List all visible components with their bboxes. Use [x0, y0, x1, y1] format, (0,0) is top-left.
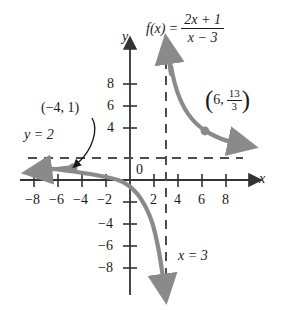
x-tick-label-neg2: −2 [97, 193, 112, 207]
point-right-open-paren: ( [205, 90, 213, 111]
function-name: f(x) [146, 21, 165, 37]
x-tick-label-4: 4 [174, 193, 181, 207]
y-tick-label-neg8: −8 [98, 261, 113, 275]
y-tick-label-neg4: −4 [98, 217, 113, 231]
x-tick-label-8: 8 [222, 193, 229, 207]
y-tick-label-8: 8 [107, 77, 114, 91]
function-equation: f(x) = 2x + 1 x − 3 [146, 12, 224, 45]
point-right-numerator: 13 [227, 88, 242, 100]
point-marker-right [201, 127, 210, 136]
curve-right-branch-top [169, 60, 171, 74]
point-left-leader-line [78, 118, 95, 163]
point-right-x: 6, [213, 92, 224, 108]
vertical-asymptote-label: x = 3 [178, 249, 208, 263]
origin-label: 0 [136, 163, 143, 177]
x-tick-label-6: 6 [198, 193, 205, 207]
vertical-asymptote-text: x = 3 [178, 248, 208, 263]
point-right-close-paren: ) [242, 90, 250, 111]
x-tick-label-neg8: −8 [25, 193, 40, 207]
graph-canvas [0, 0, 285, 310]
rational-function-graph-figure: f(x) = 2x + 1 x − 3 y x 0 −8 −6 −4 −2 2 … [0, 0, 285, 310]
x-tick-label-neg6: −6 [49, 193, 64, 207]
equation-fraction: 2x + 1 x − 3 [181, 12, 224, 45]
point-right-denominator: 3 [230, 101, 240, 113]
equation-numerator: 2x + 1 [181, 12, 224, 28]
x-axis-label: x [259, 172, 265, 186]
horizontal-asymptote-label: y = 2 [24, 128, 54, 142]
y-tick-label-4: 4 [107, 121, 114, 135]
equation-denominator: x − 3 [185, 29, 221, 45]
equals-sign: = [169, 21, 177, 37]
point-marker-left [69, 164, 78, 173]
horizontal-asymptote-text: y = 2 [24, 127, 54, 142]
point-right-fraction: 13 3 [227, 88, 242, 113]
x-tick-label-neg4: −4 [73, 193, 88, 207]
point-left-label: (−4, 1) [41, 101, 79, 115]
y-tick-label-neg6: −6 [98, 239, 113, 253]
y-tick-label-6: 6 [107, 99, 114, 113]
x-tick-label-2: 2 [150, 193, 157, 207]
y-axis-label: y [122, 30, 128, 44]
point-right-label: ( 6, 13 3 ) [205, 88, 250, 113]
